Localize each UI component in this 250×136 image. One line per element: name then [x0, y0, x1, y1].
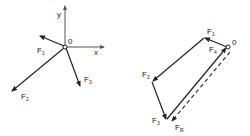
f1-label: F1 — [37, 46, 45, 56]
polygon-f4-arrow — [167, 48, 226, 119]
origin-point — [63, 45, 67, 49]
origin-label: 0 — [68, 37, 73, 46]
polygon-f1-label: F1 — [207, 27, 215, 37]
force-diagrams: y x 0 F1 F2 F3 0 F1 F2 F3 F4 FR — [0, 0, 250, 136]
polygon-f3-arrow — [152, 82, 166, 119]
f3-label: F3 — [84, 75, 92, 85]
resultant-fr-dashed — [172, 52, 230, 121]
polygon-origin-label: 0 — [232, 38, 237, 47]
force-polygon-diagram: 0 F1 F2 F3 F4 FR — [142, 27, 237, 133]
force-f1-arrow — [40, 36, 64, 46]
polygon-f2-arrow — [153, 38, 204, 81]
polygon-fr-label: FR — [175, 123, 184, 133]
polygon-f3-label: F3 — [152, 116, 160, 126]
force-f3-arrow — [66, 48, 80, 86]
f2-label: F2 — [21, 92, 29, 102]
concurrent-forces-diagram: y x 0 F1 F2 F3 — [12, 6, 104, 102]
y-axis-label: y — [57, 10, 61, 19]
polygon-f2-label: F2 — [142, 70, 150, 80]
x-axis-label: x — [94, 48, 98, 57]
polygon-origin-point — [226, 45, 230, 49]
polygon-f4-label: F4 — [209, 45, 217, 55]
